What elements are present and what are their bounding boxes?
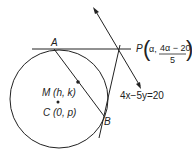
arrow-head-down-icon [136, 82, 141, 89]
label-b: B [104, 116, 111, 127]
label-a: A [50, 37, 58, 48]
label-p-denominator: 5 [170, 55, 175, 65]
label-m: M (h, k) [42, 87, 76, 98]
circle [10, 50, 108, 148]
arrow-head-up-icon [93, 7, 99, 14]
point-m [76, 80, 80, 84]
paren-right: ) [186, 36, 192, 61]
label-p-alpha: α, [149, 44, 157, 54]
point-c [57, 101, 60, 104]
label-c: C (0, p) [43, 107, 76, 118]
diagram: A B M (h, k) C (0, p) P ( α, 4α − 20 5 )… [0, 0, 192, 156]
label-p: P [136, 43, 143, 54]
label-line-equation: 4x−5y=20 [120, 90, 164, 101]
